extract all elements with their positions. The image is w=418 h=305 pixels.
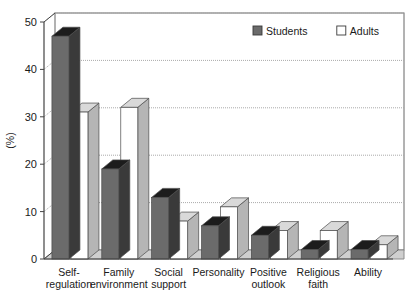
x-axis-category-label: environment (90, 278, 148, 290)
legend-swatch (253, 26, 262, 35)
bar-front (152, 197, 169, 259)
y-axis-top-edge (44, 13, 55, 22)
legend-label: Adults (350, 25, 379, 37)
bar-front (52, 36, 69, 259)
bar-side (88, 103, 99, 259)
legend-label: Students (266, 25, 307, 37)
x-axis-category-label: Social (154, 266, 183, 278)
x-axis-category-label: Religious (297, 266, 340, 278)
y-axis-tick-label: 20 (25, 158, 37, 170)
bar-side (238, 198, 249, 259)
bar-front (351, 250, 368, 259)
bar-side (138, 98, 149, 259)
y-axis-tick-label: 0 (31, 253, 37, 265)
y-axis-title: (%) (4, 132, 16, 148)
y-axis-tick-label: 40 (25, 63, 37, 75)
x-axis-category-label: Positive (250, 266, 287, 278)
bar-side (169, 188, 180, 259)
bar-side (119, 160, 130, 259)
bar-side (69, 27, 80, 259)
bar-front (102, 169, 119, 259)
x-axis-category-label: outlook (251, 278, 286, 290)
bar-chart: 01020304050(%)Self-regulationFamilyenvir… (0, 0, 418, 305)
x-axis-category-label: Family (103, 266, 135, 278)
y-axis-tick-label: 30 (25, 111, 37, 123)
x-axis-category-label: regulation (46, 278, 92, 290)
x-axis-category-label: Ability (354, 266, 383, 278)
bar-front (202, 226, 219, 259)
bar-front (301, 250, 318, 259)
y-axis: 01020304050 (25, 13, 55, 265)
x-axis-category-label: Personality (193, 266, 246, 278)
chart-container: 01020304050(%)Self-regulationFamilyenvir… (0, 0, 418, 305)
bar-front (251, 235, 268, 259)
y-axis-tick-label: 50 (25, 16, 37, 28)
x-axis-labels: Self-regulationFamilyenvironmentSocialsu… (46, 266, 383, 290)
x-axis-category-label: Self- (58, 266, 80, 278)
legend-swatch (337, 26, 346, 35)
y-axis-tick-label: 10 (25, 206, 37, 218)
x-axis-category-label: faith (308, 278, 328, 290)
x-axis-category-label: support (151, 278, 186, 290)
